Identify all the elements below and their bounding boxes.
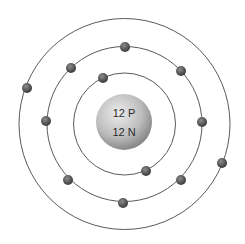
neutron-count-label: 12 N: [112, 126, 135, 138]
electron-shell-2: [63, 175, 73, 185]
electron-shell-2: [66, 63, 76, 73]
electron-shell-2: [118, 198, 128, 208]
electron-shell-1: [141, 166, 151, 176]
electron-shell-1: [98, 73, 108, 83]
atom-diagram: 12 P 12 N: [0, 0, 245, 244]
nucleus: 12 P 12 N: [96, 94, 152, 150]
proton-count-label: 12 P: [113, 107, 136, 119]
electron-shell-2: [41, 116, 51, 126]
electron-shell-2: [176, 175, 186, 185]
nucleus-sphere: [96, 94, 152, 150]
electron-shell-2: [197, 117, 207, 127]
electron-shell-2: [120, 42, 130, 52]
electron-shell-3: [22, 83, 32, 93]
electron-shell-3: [217, 158, 227, 168]
electron-shell-2: [176, 66, 186, 76]
